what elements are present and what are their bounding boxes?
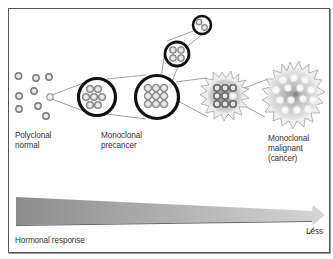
- label-line: malignant: [268, 144, 309, 154]
- label-polyclonal-normal: Polyclonal normal: [15, 131, 51, 151]
- subclone-medium: [165, 42, 189, 66]
- label-monoclonal-malignant: Monoclonal malignant (cancer): [268, 134, 309, 164]
- malignant-tumor: [262, 61, 325, 129]
- precancer-clone-large: [136, 76, 179, 119]
- label-line: normal: [15, 141, 51, 151]
- transitional-clone: [200, 71, 249, 121]
- label-monoclonal-precancer: Monoclonal precancer: [101, 131, 142, 151]
- hormonal-response-arrow: [16, 197, 325, 234]
- label-line: Polyclonal: [15, 131, 51, 141]
- label-line: Monoclonal: [268, 134, 309, 144]
- axis-label-text: Hormonal response: [15, 236, 85, 246]
- subclone-small: [193, 16, 211, 34]
- label-line: Monoclonal: [101, 131, 142, 141]
- axis-end-text: Less: [306, 227, 323, 237]
- label-line: (cancer): [268, 154, 309, 164]
- polyclonal-cells: [15, 73, 53, 119]
- precancer-clone-small: [79, 79, 116, 116]
- clonal-progression-diagram: [0, 0, 333, 259]
- axis-label-hormonal-response: Hormonal response: [15, 236, 85, 246]
- label-line: precancer: [101, 141, 142, 151]
- axis-end-label-less: Less: [306, 227, 323, 237]
